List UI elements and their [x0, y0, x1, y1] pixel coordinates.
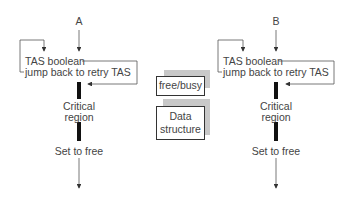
data-structure-line1: Data [169, 110, 191, 123]
free-busy-flag-box: free/busy [156, 76, 205, 96]
process-a-critical-line1: Critical [54, 101, 104, 112]
process-a-tas-line2: jump back to retry TAS [25, 67, 131, 78]
process-b-label: B [270, 16, 282, 27]
process-a-critical-line2: region [54, 112, 104, 123]
free-busy-label: free/busy [159, 79, 202, 92]
process-b-set-free: Set to free [241, 146, 311, 157]
process-a-label: A [73, 16, 85, 27]
process-a-tas-line1: TAS boolean [25, 56, 85, 67]
process-b-critical-line2: region [251, 112, 301, 123]
process-b-tas-line1: TAS boolean [223, 56, 283, 67]
data-structure-line2: structure [160, 123, 201, 136]
process-a-set-free: Set to free [44, 146, 114, 157]
data-structure-box: Data structure [156, 106, 205, 140]
process-b-critical-line1: Critical [251, 101, 301, 112]
process-b-tas-line2: jump back to retry TAS [223, 67, 329, 78]
